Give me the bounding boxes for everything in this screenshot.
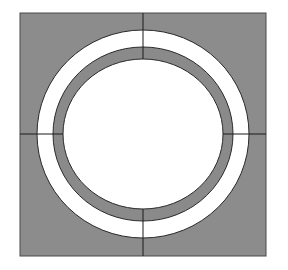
ring-diagram [0, 0, 288, 270]
inner-white-circle [63, 59, 223, 209]
